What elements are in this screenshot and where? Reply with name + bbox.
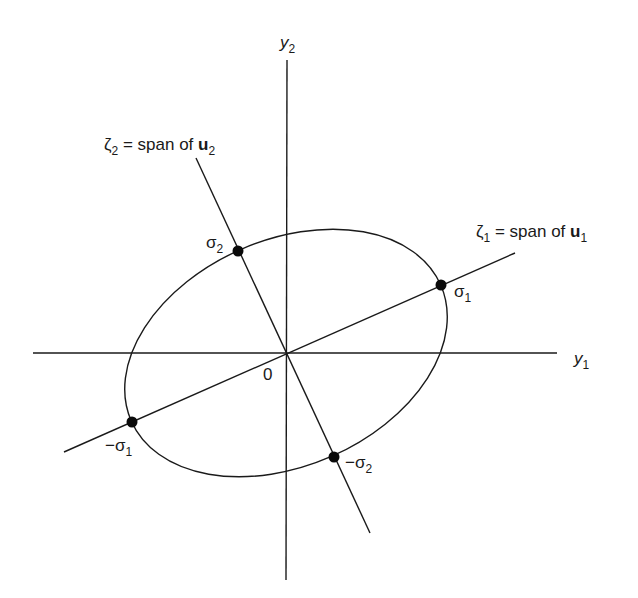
point-sigma2	[233, 246, 244, 257]
point-neg-sigma1	[127, 417, 138, 428]
zeta1-label: ζ1 = span of u1	[476, 222, 587, 245]
zeta2-line	[196, 158, 370, 533]
neg-sigma1-label: −σ1	[105, 436, 132, 459]
zeta2-label: ζ2 = span of u2	[104, 135, 215, 158]
sigma1-label: σ1	[454, 282, 472, 305]
ellipse-diagram: y2 y1 0 ζ2 = span of u2 ζ1 = span of u1 …	[0, 0, 638, 598]
sigma2-label: σ2	[206, 233, 224, 256]
origin-label: 0	[263, 365, 272, 384]
point-sigma1	[436, 280, 447, 291]
y2-axis-label: y2	[279, 33, 296, 56]
y2-axis	[286, 60, 287, 580]
neg-sigma2-label: −σ2	[345, 453, 372, 476]
y1-axis-label: y1	[573, 349, 590, 372]
point-neg-sigma2	[329, 452, 340, 463]
